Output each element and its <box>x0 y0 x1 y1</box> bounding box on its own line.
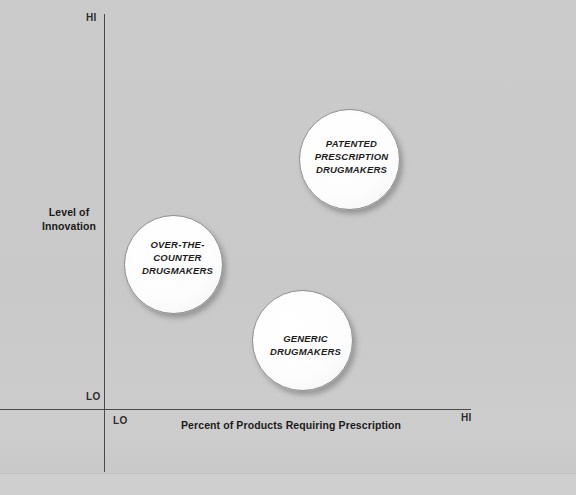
x-axis-line <box>0 409 471 410</box>
y-axis-hi-tick-label: HI <box>86 12 97 23</box>
x-axis-title: Percent of Products Requiring Prescripti… <box>181 419 401 431</box>
y-axis-lo-tick-label: LO <box>86 391 101 402</box>
y-axis-title: Level of Innovation <box>40 205 98 233</box>
y-axis-line <box>104 14 105 472</box>
bottom-edge-band <box>0 473 576 495</box>
bubble-over-the-counter-drugmakers: OVER-THE- COUNTER DRUGMAKERS <box>124 215 223 314</box>
x-axis-lo-tick-label: LO <box>113 415 128 426</box>
bubble-label-generic: GENERIC DRUGMAKERS <box>270 332 341 358</box>
bubble-label-patented: PATENTED PRESCRIPTION DRUGMAKERS <box>315 137 389 176</box>
x-axis-hi-tick-label: HI <box>461 412 472 423</box>
bubble-label-otc: OVER-THE- COUNTER DRUGMAKERS <box>142 238 213 277</box>
bubble-patented-prescription-drugmakers: PATENTED PRESCRIPTION DRUGMAKERS <box>299 109 400 210</box>
bubble-generic-drugmakers: GENERIC DRUGMAKERS <box>252 290 353 391</box>
